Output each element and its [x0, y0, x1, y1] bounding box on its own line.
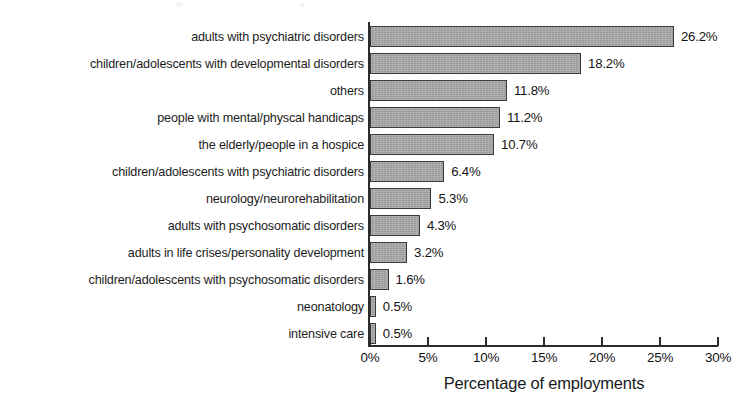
bar-chart-figure: adults with psychiatric disorders26.2%ch… [0, 0, 746, 409]
bar-value-label: 18.2% [588, 57, 624, 70]
bar-row: neonatology0.5% [0, 293, 746, 320]
bar [370, 26, 674, 47]
bar-value-label: 26.2% [681, 30, 717, 43]
bar-value-label: 11.2% [507, 111, 542, 124]
bar-value-label: 0.5% [383, 327, 412, 340]
category-label: children/adolescents with developmental … [90, 57, 364, 70]
bar [370, 242, 407, 263]
category-label: intensive care [288, 327, 364, 340]
x-axis-tick [659, 337, 661, 346]
x-axis-tick [427, 337, 429, 346]
bar [370, 161, 444, 182]
category-label: neurology/neurorehabilitation [206, 192, 364, 205]
bar-row: the elderly/people in a hospice10.7% [0, 131, 746, 158]
category-label: children/adolescents with psychosomatic … [89, 273, 364, 286]
bar-row: children/adolescents with psychosomatic … [0, 266, 746, 293]
x-axis-title: Percentage of employments [370, 374, 718, 393]
bar-value-label: 1.6% [396, 273, 425, 286]
x-axis-tick-label: 5% [419, 350, 438, 365]
bar [370, 53, 581, 74]
x-axis-tick [601, 337, 603, 346]
bar-row: children/adolescents with psychiatric di… [0, 158, 746, 185]
bar-value-label: 3.2% [414, 246, 443, 259]
plot-area: adults with psychiatric disorders26.2%ch… [0, 18, 746, 348]
bar-value-label: 5.3% [438, 192, 467, 205]
x-axis-tick-label: 15% [531, 350, 557, 365]
bar-row: intensive care0.5% [0, 320, 746, 347]
category-label: neonatology [297, 300, 364, 313]
category-label: adults with psychiatric disorders [191, 30, 364, 43]
bar-value-label: 4.3% [427, 219, 456, 232]
bar-value-label: 0.5% [383, 300, 412, 313]
bar-row: people with mental/physcal handicaps11.2… [0, 104, 746, 131]
x-axis-tick [543, 337, 545, 346]
bar-row: neurology/neurorehabilitation5.3% [0, 185, 746, 212]
bar-value-label: 10.7% [501, 138, 537, 151]
x-axis-tick-label: 20% [589, 350, 615, 365]
category-label: children/adolescents with psychiatric di… [112, 165, 364, 178]
category-label: people with mental/physcal handicaps [157, 111, 364, 124]
category-label: adults with psychosomatic disorders [168, 219, 364, 232]
category-label: the elderly/people in a hospice [199, 138, 364, 151]
x-axis-tick [717, 337, 719, 346]
y-axis-line [368, 22, 370, 346]
scan-artifact [300, 3, 305, 7]
bar-row: adults with psychiatric disorders26.2% [0, 23, 746, 50]
bar [370, 296, 376, 317]
bar-row: adults in life crises/personality develo… [0, 239, 746, 266]
bar-row: adults with psychosomatic disorders4.3% [0, 212, 746, 239]
scan-artifact [176, 2, 183, 7]
x-axis-tick-label: 10% [473, 350, 499, 365]
bar [370, 107, 500, 128]
bar-row: children/adolescents with developmental … [0, 50, 746, 77]
x-axis-tick-label: 30% [705, 350, 731, 365]
bar [370, 134, 494, 155]
x-axis-tick-label: 0% [361, 350, 380, 365]
bar [370, 215, 420, 236]
bar-value-label: 11.8% [514, 84, 549, 97]
bar [370, 269, 389, 290]
category-label: others [330, 84, 364, 97]
bar [370, 80, 507, 101]
x-axis-tick-label: 25% [647, 350, 673, 365]
bar-value-label: 6.4% [451, 165, 480, 178]
bar [370, 188, 431, 209]
category-label: adults in life crises/personality develo… [128, 246, 364, 259]
x-axis-tick [485, 337, 487, 346]
x-axis-tick [369, 337, 371, 346]
bar-row: others11.8% [0, 77, 746, 104]
